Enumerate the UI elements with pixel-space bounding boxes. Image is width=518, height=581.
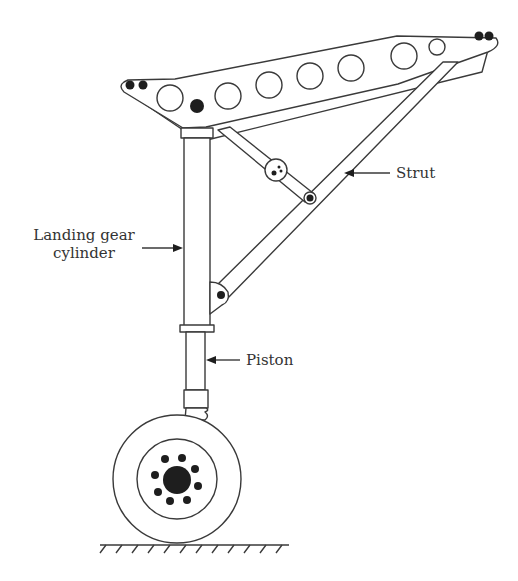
landing-gear-cylinder [180, 128, 228, 332]
drag-link [218, 127, 316, 204]
cylinder-label-line2: cylinder [28, 244, 140, 262]
wheel [113, 415, 241, 543]
landing-gear-diagram: Strut Landing gear cylinder Piston [0, 0, 518, 581]
cylinder-label-line1: Landing gear [28, 226, 140, 244]
ground-line [100, 545, 289, 553]
wing-beam [121, 32, 498, 141]
piston [184, 332, 208, 420]
piston-label: Piston [246, 351, 293, 369]
piston-leader-arrow [206, 356, 240, 364]
strut-label: Strut [396, 164, 435, 182]
cylinder-leader-arrow [142, 244, 183, 252]
